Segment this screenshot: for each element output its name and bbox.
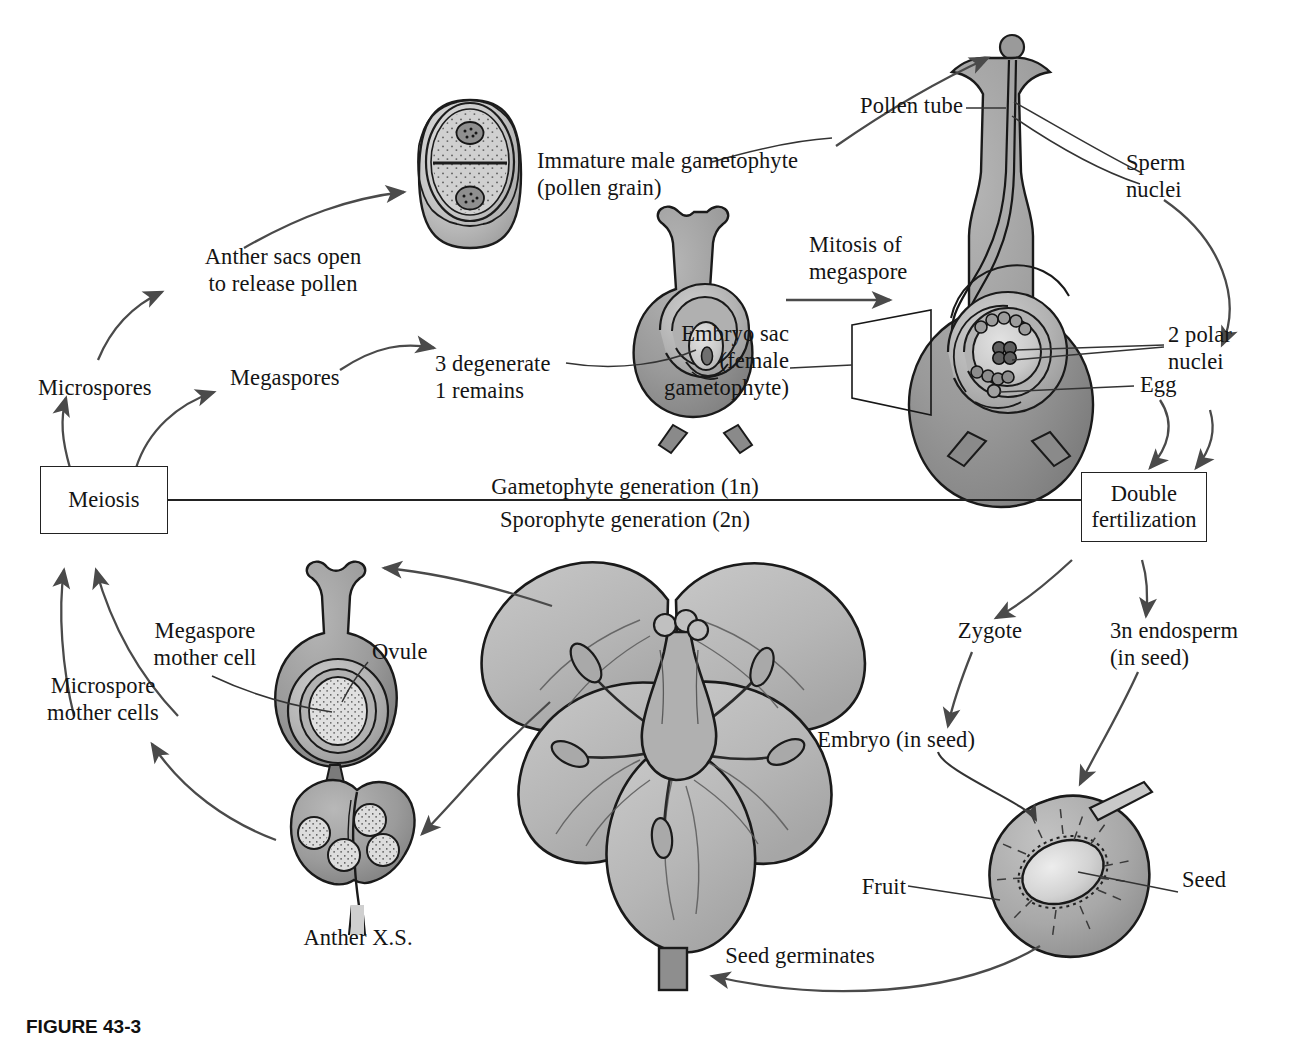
megaspores-label: Megaspores [230,364,340,391]
two-polar-nuclei-label: 2 polar nuclei [1168,321,1232,375]
three-degenerate-label: 3 degenerate 1 remains [435,350,551,404]
pollen-tube-label: Pollen tube [860,92,963,119]
sporophyte-generation-label: Sporophyte generation (2n) [500,506,750,533]
anther-cross-section-illustration [291,780,415,935]
fruit-with-seed-illustration [989,782,1152,957]
embryo-sac-label: Embryo sac (female gametophyte) [664,320,789,401]
anther-sacs-open-label: Anther sacs open to release pollen [205,243,362,297]
figure-caption: FIGURE 43-3 [26,1016,141,1037]
meiosis-box[interactable]: Meiosis [40,466,168,534]
flower-illustration [482,562,865,990]
egg-label: Egg [1140,371,1177,398]
endosperm-label: 3n endosperm (in seed) [1110,617,1238,671]
zygote-label: Zygote [958,617,1022,644]
seed-label: Seed [1182,866,1226,893]
seed-germinates-label: Seed germinates [725,942,875,969]
embryo-in-seed-label: Embryo (in seed) [817,726,975,753]
double-fertilization-box[interactable]: Double fertilization [1081,472,1207,542]
meiosis-label: Meiosis [68,487,139,513]
double-fertilization-label: Double fertilization [1092,481,1197,533]
sperm-nuclei-label: Sperm nuclei [1126,149,1185,203]
microspore-mother-cells-label: Microspore mother cells [47,672,159,726]
anther-xs-label: Anther X.S. [303,924,412,951]
immature-male-gametophyte-label: Immature male gametophyte (pollen grain) [537,147,798,201]
gametophyte-generation-label: Gametophyte generation (1n) [491,473,759,500]
microspores-label: Microspores [38,374,152,401]
megaspore-mother-cell-label: Megaspore mother cell [154,617,257,671]
ovule-with-megaspore-mother-cell-illustration [275,562,396,783]
mitosis-of-megaspore-label: Mitosis of megaspore [809,231,907,285]
fruit-label: Fruit [862,873,906,900]
figure-canvas: Meiosis Double fertilization Gametophyte… [0,0,1299,1037]
pollen-grain-illustration [418,100,521,248]
ovule-label: Ovule [372,638,428,665]
